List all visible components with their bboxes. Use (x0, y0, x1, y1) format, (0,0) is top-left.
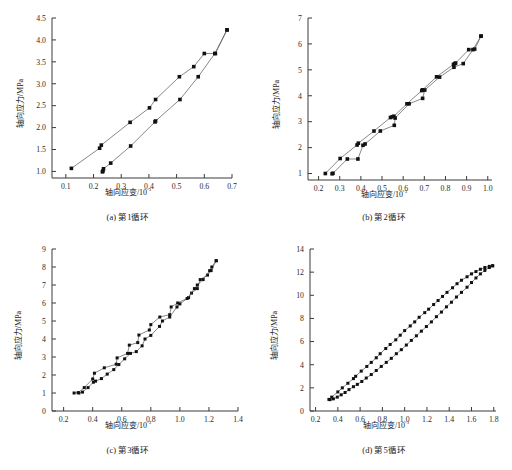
svg-text:4.0: 4.0 (36, 36, 46, 45)
svg-text:14: 14 (296, 245, 304, 254)
y-axis-label-d: 轴向应力/MPa (268, 281, 279, 391)
y-axis-label-c: 轴向应力/MPa (12, 281, 23, 391)
x-axis-label-d: 轴向应变/10-3 (258, 419, 512, 430)
y-axis-label-b: 轴向应力/MPa (270, 50, 281, 160)
svg-text:2: 2 (300, 384, 304, 393)
svg-text:2.5: 2.5 (36, 101, 46, 110)
svg-text:5: 5 (42, 317, 46, 326)
svg-text:7: 7 (298, 14, 302, 23)
x-axis-label-b: 轴向应变/10-3 (256, 188, 512, 199)
svg-text:3: 3 (298, 117, 302, 126)
panel-c: 01234567890.20.40.60.81.01.21.4 轴向应力/MPa… (0, 235, 256, 470)
svg-text:4: 4 (300, 361, 304, 370)
panel-b: 12345670.20.30.40.50.60.70.80.91.0 轴向应力/… (256, 0, 512, 235)
svg-text:1: 1 (298, 169, 302, 178)
svg-text:3: 3 (42, 353, 46, 362)
x-axis-label-c: 轴向应变/10-3 (0, 419, 256, 430)
svg-text:8: 8 (300, 314, 304, 323)
plot-area-b: 12345670.20.30.40.50.60.70.80.91.0 (256, 0, 512, 200)
panel-caption-d: (d) 第5循环 (256, 443, 512, 455)
svg-text:8: 8 (42, 263, 46, 272)
panel-a: 1.01.52.02.53.03.54.04.50.10.20.30.40.50… (0, 0, 256, 235)
svg-text:3.0: 3.0 (36, 80, 46, 89)
x-axis-label-a: 轴向应变/10-3 (0, 186, 256, 197)
panel-caption-c: (c) 第3循环 (0, 443, 256, 455)
svg-text:5: 5 (298, 66, 302, 75)
svg-text:2.0: 2.0 (36, 123, 46, 132)
panel-d: 024681012140.20.40.60.81.01.21.41.61.8 轴… (256, 235, 512, 470)
svg-text:4: 4 (298, 92, 302, 101)
svg-text:2: 2 (42, 371, 46, 380)
svg-text:7: 7 (42, 281, 46, 290)
svg-text:9: 9 (42, 245, 46, 254)
svg-text:2: 2 (298, 143, 302, 152)
svg-text:4.5: 4.5 (36, 14, 46, 23)
svg-text:3.5: 3.5 (36, 58, 46, 67)
svg-text:0: 0 (42, 407, 46, 416)
svg-text:6: 6 (300, 337, 304, 346)
svg-text:4: 4 (42, 335, 46, 344)
panel-caption-a: (a) 第1循环 (0, 210, 256, 222)
svg-text:1.0: 1.0 (36, 167, 46, 176)
plot-area-a: 1.01.52.02.53.03.54.04.50.10.20.30.40.50… (0, 0, 256, 200)
svg-text:6: 6 (42, 299, 46, 308)
svg-text:6: 6 (298, 40, 302, 49)
figure-four-panel-hysteresis: 1.01.52.02.53.03.54.04.50.10.20.30.40.50… (0, 0, 512, 470)
plot-area-d: 024681012140.20.40.60.81.01.21.41.61.8 (256, 235, 512, 435)
svg-text:1: 1 (42, 389, 46, 398)
plot-area-c: 01234567890.20.40.60.81.01.21.4 (0, 235, 256, 435)
svg-text:1.5: 1.5 (36, 145, 46, 154)
svg-text:10: 10 (296, 291, 304, 300)
svg-text:12: 12 (296, 268, 304, 277)
svg-text:0: 0 (300, 407, 304, 416)
y-axis-label-a: 轴向应力/MPa (14, 49, 25, 159)
panel-caption-b: (b) 第2循环 (256, 210, 512, 222)
